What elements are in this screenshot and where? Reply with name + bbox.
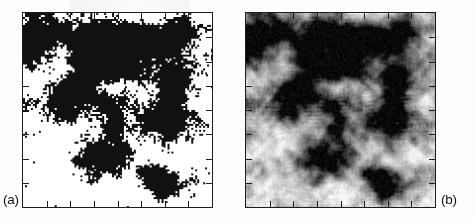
panel-label-a: (a) [3,193,19,207]
tick-mark [23,62,29,63]
tick-mark [47,201,48,207]
tick-mark [206,159,212,160]
tick-mark [23,159,29,160]
tick-mark [23,134,29,135]
tick-mark [293,201,294,207]
tick-mark [429,183,435,184]
tick-mark [23,86,29,87]
tick-mark [317,13,318,19]
tick-mark [429,110,435,111]
tick-mark [141,201,142,207]
tick-mark [429,86,435,87]
tick-mark [246,110,252,111]
tick-mark [246,134,252,135]
scan-bleed-artifact [70,0,190,11]
panel-b [245,12,436,208]
tick-mark [206,62,212,63]
tick-mark [94,13,95,19]
tick-mark [70,201,71,207]
tick-mark [23,183,29,184]
tick-mark [188,201,189,207]
tick-mark [188,13,189,19]
tick-mark [246,62,252,63]
tick-mark [47,13,48,19]
tick-mark [270,13,271,19]
tick-mark [94,201,95,207]
tick-mark [429,159,435,160]
tick-mark [341,201,342,207]
tick-mark [317,201,318,207]
tick-mark [23,37,29,38]
tick-mark [411,201,412,207]
tick-mark [206,183,212,184]
tick-mark [246,37,252,38]
tick-mark [165,13,166,19]
tick-mark [118,13,119,19]
tick-mark [388,201,389,207]
tick-mark [206,37,212,38]
tick-mark [246,86,252,87]
tick-mark [364,13,365,19]
tick-mark [206,134,212,135]
tick-mark [364,201,365,207]
tick-mark [429,134,435,135]
tick-mark [293,13,294,19]
tick-mark [165,201,166,207]
tick-mark [429,62,435,63]
density-field-image-a [23,13,212,207]
tick-mark [411,13,412,19]
tick-mark [206,86,212,87]
tick-mark [246,183,252,184]
figure-container: (a) (b) [0,0,475,222]
tick-mark [70,13,71,19]
tick-mark [118,201,119,207]
tick-mark [429,37,435,38]
tick-mark [341,13,342,19]
panel-a [22,12,213,208]
panel-label-b: (b) [441,193,457,207]
tick-mark [246,159,252,160]
tick-mark [270,201,271,207]
tick-mark [23,110,29,111]
tick-mark [206,110,212,111]
tick-mark [141,13,142,19]
density-field-image-b [246,13,435,207]
tick-mark [388,13,389,19]
